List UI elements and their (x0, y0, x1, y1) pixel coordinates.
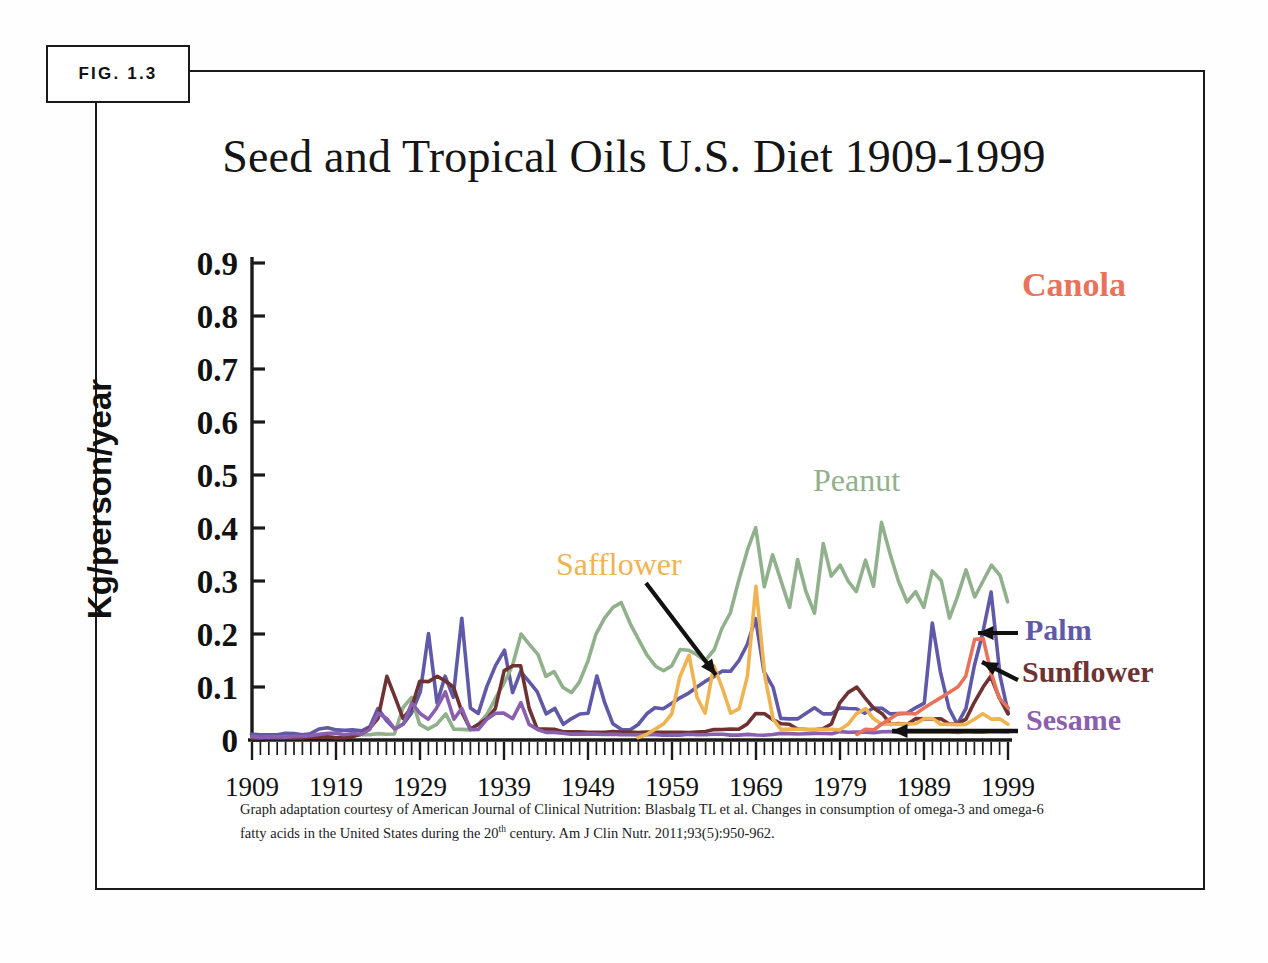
series-label-canola: Canola (1022, 266, 1126, 304)
y-axis-tick-label: 0.7 (197, 352, 238, 388)
axes-group (248, 257, 1012, 760)
y-axis-tick-label: 0.1 (197, 670, 238, 706)
series-line-palm (251, 592, 1008, 735)
tick-labels-group: 0.90.80.70.60.50.40.30.20.10190919191929… (197, 246, 1035, 802)
series-label-palm: Palm (1025, 613, 1092, 647)
caption-superscript: th (499, 824, 506, 834)
figure-caption: Graph adaptation courtesy of American Jo… (240, 798, 1050, 846)
caption-line-2b: century. Am J Clin Nutr. 2011;93(5):950-… (506, 825, 775, 841)
safflower-annotation-arrow (646, 583, 716, 675)
y-axis-tick-label: 0.4 (197, 511, 238, 547)
series-label-sunflower: Sunflower (1022, 655, 1154, 689)
y-axis-tick-label: 0.3 (197, 564, 238, 600)
figure-page: FIG. 1.3 Seed and Tropical Oils U.S. Die… (0, 0, 1268, 963)
y-axis-tick-label: 0.2 (197, 617, 238, 653)
y-axis-tick-label: 0.8 (197, 299, 238, 335)
series-label-peanut: Peanut (813, 462, 900, 499)
sesame-annotation-arrow-head (892, 724, 908, 738)
caption-line-1: Graph adaptation courtesy of American Jo… (240, 801, 910, 817)
y-axis-tick-label: 0.9 (197, 246, 238, 282)
series-label-safflower: Safflower (556, 546, 682, 583)
y-axis-tick-label: 0.5 (197, 458, 238, 494)
figure-number-label: FIG. 1.3 (78, 64, 157, 84)
y-axis-tick-label: 0.6 (197, 405, 238, 441)
figure-number-badge: FIG. 1.3 (46, 45, 190, 103)
series-label-sesame: Sesame (1026, 703, 1121, 737)
y-axis-tick-label: 0 (222, 723, 239, 759)
